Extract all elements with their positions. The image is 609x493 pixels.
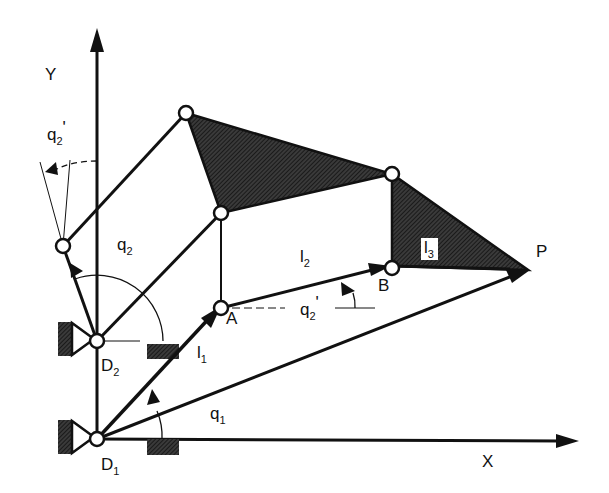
p-arrow-icon: [506, 270, 530, 283]
coupler-triangle: [186, 113, 392, 213]
link-upper-left: [63, 113, 186, 246]
p-label: P: [536, 242, 547, 261]
joint-top-left: [179, 106, 193, 120]
q2prime-top-label: q2': [47, 118, 66, 147]
q2prime-mid-arc: [353, 293, 355, 308]
q1-label: q1: [210, 404, 226, 426]
joint-crank-end: [56, 239, 70, 253]
q2prime-ref-line: [63, 160, 70, 246]
ground-support-d1: [58, 420, 94, 454]
end-effector-triangle: [392, 174, 528, 270]
b-label: B: [378, 276, 389, 295]
q1-arrow-icon: [147, 389, 160, 405]
l1-label: l1: [197, 343, 207, 365]
q2-arrow-icon: [70, 263, 83, 278]
x-axis-label: X: [482, 452, 493, 471]
x-axis-arrow-icon: [556, 434, 579, 448]
joint-d1: [90, 432, 104, 446]
q2prime-mid-label: q2': [300, 293, 319, 322]
ground-hatch-d1-ref: [147, 439, 179, 455]
d1-label: D1: [101, 455, 119, 477]
joint-coupler-bottom: [214, 206, 228, 220]
ground-support-d2: [58, 322, 94, 356]
joint-b: [385, 261, 399, 275]
q2prime-top-arc: [55, 161, 97, 170]
q2prime-top-arrow-icon: [45, 162, 58, 175]
q2-label: q2: [117, 235, 133, 257]
y-axis-label: Y: [45, 65, 56, 84]
joint-coupler-right: [385, 167, 399, 181]
d2-label: D2: [101, 356, 119, 378]
l2-label: l2: [300, 247, 310, 269]
linkage-diagram: Y X q2' q2 D2 D1 l1 l2 l3 A B P q2' q1: [0, 0, 609, 493]
q2prime-ray: [40, 162, 63, 246]
y-axis-arrow-icon: [90, 28, 104, 52]
link-d2-parallel: [97, 213, 221, 341]
joint-d2: [90, 334, 104, 348]
y-axis: [90, 28, 104, 440]
a-label: A: [226, 309, 238, 328]
